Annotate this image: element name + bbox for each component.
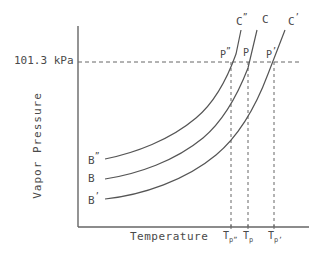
curve-label-c-double-prime-mark: ” bbox=[243, 13, 248, 22]
x-tick-label-tp-double-prime-sub: p” bbox=[229, 236, 237, 244]
vapor-pressure-chart: 101.3 kPa Vapor Pressure Temperature C” … bbox=[0, 0, 318, 258]
x-tick-label-tp-double-prime: Tp” bbox=[223, 231, 237, 244]
curve-label-c-double-prime: C” bbox=[236, 14, 247, 27]
curve-b-c bbox=[105, 30, 257, 179]
curve-label-b-prime: B’ bbox=[88, 193, 99, 206]
curve-label-b-double-prime-mark: ” bbox=[95, 152, 100, 161]
curve-label-b-double-prime-text: B bbox=[88, 154, 95, 167]
point-label-p-double-prime-mark: ” bbox=[226, 47, 231, 56]
point-label-p-prime-mark: ’ bbox=[272, 47, 277, 56]
y-axis-tick-label-101-3-kpa: 101.3 kPa bbox=[14, 55, 74, 66]
curve-label-b: B bbox=[88, 173, 95, 184]
curve-label-c-double-prime-text: C bbox=[236, 15, 243, 28]
point-label-p-text: P bbox=[243, 47, 249, 58]
curve-label-b-double-prime: B” bbox=[88, 153, 99, 166]
x-tick-label-tp-prime-sub: p’ bbox=[274, 236, 282, 244]
curve-label-b-prime-mark: ’ bbox=[95, 192, 100, 201]
point-label-p-double-prime: P” bbox=[220, 48, 231, 60]
chart-plot-area bbox=[0, 0, 318, 258]
x-axis-title: Temperature bbox=[130, 231, 208, 242]
curve-label-c-prime-mark: ’ bbox=[295, 13, 300, 22]
curve-label-b-text: B bbox=[88, 172, 95, 185]
x-tick-label-tp-prime: Tp’ bbox=[268, 231, 282, 244]
curve-label-c-text: C bbox=[262, 13, 269, 26]
y-axis-title: Vapor Pressure bbox=[32, 86, 43, 206]
point-label-p: P bbox=[243, 48, 249, 58]
curve-label-b-prime-text: B bbox=[88, 194, 95, 207]
x-tick-label-tp-sub: p bbox=[249, 236, 253, 244]
curve-label-c: C bbox=[262, 14, 269, 25]
curve-label-c-prime-text: C bbox=[288, 15, 295, 28]
point-label-p-prime: P’ bbox=[266, 48, 277, 60]
curve-label-c-prime: C’ bbox=[288, 14, 299, 27]
x-tick-label-tp: Tp bbox=[243, 231, 253, 244]
